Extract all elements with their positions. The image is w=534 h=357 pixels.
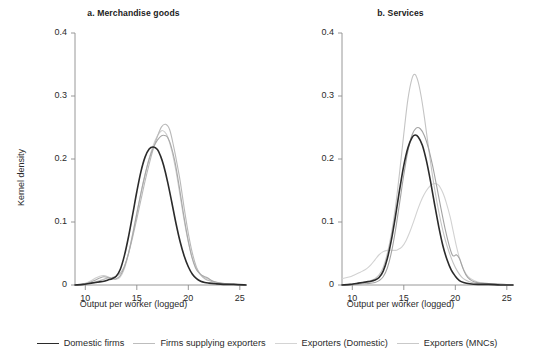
legend-line-swatch — [275, 343, 297, 344]
legend-label: Firms supplying exporters — [160, 338, 265, 348]
y-tick-label: 0.3 — [33, 90, 67, 100]
density-curve — [342, 128, 513, 286]
x-tick-label: 20 — [173, 293, 203, 303]
x-tick-label: 20 — [440, 293, 470, 303]
legend-item[interactable]: Exporters (Domestic) — [275, 338, 388, 348]
y-tick-label: 0.1 — [300, 216, 334, 226]
panel-merchandise-goods: a. Merchandise goods Kernel density Outp… — [0, 0, 267, 320]
chart-legend: Domestic firmsFirms supplying exportersE… — [0, 332, 534, 354]
y-tick-label: 0 — [300, 279, 334, 289]
y-tick-label: 0.2 — [300, 153, 334, 163]
legend-label: Domestic firms — [64, 338, 125, 348]
x-tick-label: 25 — [225, 293, 255, 303]
x-tick-label: 10 — [337, 293, 367, 303]
x-tick-label: 10 — [70, 293, 100, 303]
y-tick-label: 0 — [33, 279, 67, 289]
legend-item[interactable]: Firms supplying exporters — [133, 338, 265, 348]
density-curve — [75, 124, 246, 285]
figure-kernel-density: a. Merchandise goods Kernel density Outp… — [0, 0, 534, 357]
density-curve — [342, 184, 513, 285]
y-tick-label: 0.4 — [33, 27, 67, 37]
x-tick-label: 15 — [122, 293, 152, 303]
y-tick-label: 0.4 — [300, 27, 334, 37]
y-tick-label: 0.3 — [300, 90, 334, 100]
y-tick-label: 0.1 — [33, 216, 67, 226]
legend-line-swatch — [37, 343, 59, 344]
legend-label: Exporters (Domestic) — [302, 338, 388, 348]
legend-line-swatch — [397, 343, 419, 344]
y-tick-label: 0.2 — [33, 153, 67, 163]
density-curve — [75, 147, 246, 285]
density-curve — [342, 74, 513, 285]
legend-label: Exporters (MNCs) — [424, 338, 498, 348]
panel-a-y-axis-label: Kernel density — [16, 149, 26, 206]
legend-item[interactable]: Exporters (MNCs) — [397, 338, 498, 348]
x-tick-label: 25 — [492, 293, 522, 303]
density-curve — [342, 135, 513, 285]
x-tick-label: 15 — [389, 293, 419, 303]
density-curve — [75, 130, 246, 285]
legend-line-swatch — [133, 343, 155, 344]
legend-item[interactable]: Domestic firms — [37, 338, 125, 348]
panel-services: b. Services Kernel density Output per wo… — [267, 0, 534, 320]
panels-container: a. Merchandise goods Kernel density Outp… — [0, 0, 534, 320]
